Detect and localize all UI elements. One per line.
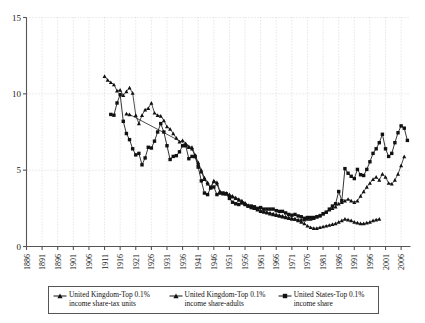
- x-tick-label-2006: 2006: [397, 254, 406, 270]
- data-point-triangle: [374, 175, 378, 179]
- data-point-square: [287, 213, 290, 216]
- x-tick-label-1936: 1936: [179, 254, 188, 270]
- data-point-square: [137, 152, 140, 155]
- data-point-square: [374, 147, 377, 150]
- data-point-square: [368, 160, 371, 163]
- data-point-triangle: [343, 217, 347, 221]
- data-point-square: [153, 139, 156, 142]
- data-point-square: [403, 126, 406, 129]
- data-point-square: [172, 155, 175, 158]
- data-point-square: [156, 130, 159, 133]
- data-point-square: [300, 215, 303, 218]
- data-point-square: [356, 168, 359, 171]
- series-1: [103, 74, 382, 230]
- data-point-square: [284, 211, 287, 214]
- legend-entry-1[interactable]: United Kingdom-Top 0.1%income share-tax …: [53, 290, 169, 308]
- data-point-square: [175, 154, 178, 157]
- data-point-square: [384, 147, 387, 150]
- data-point-triangle: [134, 113, 138, 117]
- chart-legend: United Kingdom-Top 0.1%income share-tax …: [48, 286, 379, 314]
- data-point-square: [406, 139, 409, 142]
- data-point-square: [271, 207, 274, 210]
- data-point-square: [293, 213, 296, 216]
- data-point-triangle: [153, 111, 157, 115]
- y-tick-label-0: 0: [17, 242, 22, 252]
- data-point-triangle: [131, 91, 135, 95]
- series-line-2: [126, 114, 404, 220]
- x-tick-label-1901: 1901: [69, 254, 78, 270]
- data-point-square: [281, 210, 284, 213]
- legend-label-line2-3: income share: [294, 299, 365, 308]
- data-point-square: [399, 124, 402, 127]
- data-point-square: [193, 155, 196, 158]
- data-point-square: [278, 210, 281, 213]
- y-tick-label-10: 10: [12, 89, 22, 99]
- data-point-square: [131, 147, 134, 150]
- data-point-square: [109, 113, 112, 116]
- data-point-square: [140, 163, 143, 166]
- data-point-square: [303, 217, 306, 220]
- data-point-square: [237, 203, 240, 206]
- data-point-square: [290, 214, 293, 217]
- data-point-triangle: [387, 181, 391, 185]
- data-point-square: [306, 216, 309, 219]
- x-tick-label-1941: 1941: [194, 254, 203, 270]
- data-point-square: [250, 204, 253, 207]
- legend-label-line2-1: income share-tax units: [69, 299, 150, 308]
- data-point-triangle: [380, 172, 384, 176]
- x-tick-label-1931: 1931: [163, 254, 172, 270]
- legend-entry-3[interactable]: United States-Top 0.1%income share: [278, 290, 374, 308]
- data-point-square: [178, 150, 181, 153]
- legend-label-2: United Kingdom-Top 0.1%income share-adul…: [185, 290, 266, 308]
- data-point-square: [268, 207, 271, 210]
- data-point-square: [243, 203, 246, 206]
- legend-entry-2[interactable]: United Kingdom-Top 0.1%income share-adul…: [169, 290, 278, 308]
- legend-label-line1-3: United States-Top 0.1%: [294, 290, 365, 299]
- x-tick-label-1906: 1906: [85, 254, 94, 270]
- data-point-triangle: [118, 88, 122, 92]
- x-tick-label-1951: 1951: [225, 254, 234, 270]
- data-point-square: [143, 156, 146, 159]
- data-point-square: [203, 191, 206, 194]
- data-point-square: [318, 214, 321, 217]
- data-point-square: [246, 204, 249, 207]
- data-point-square: [253, 205, 256, 208]
- data-point-square: [234, 202, 237, 205]
- x-tick-label-1886: 1886: [23, 254, 32, 270]
- x-tick-label-1996: 1996: [366, 254, 375, 270]
- x-tick-label-1911: 1911: [101, 254, 110, 270]
- data-point-square: [209, 186, 212, 189]
- data-point-triangle: [128, 86, 132, 90]
- x-tick-label-1981: 1981: [319, 254, 328, 270]
- data-point-square: [215, 193, 218, 196]
- data-point-square: [353, 177, 356, 180]
- data-point-square: [265, 207, 268, 210]
- legend-label-3: United States-Top 0.1%income share: [294, 290, 365, 308]
- data-point-square: [346, 172, 349, 175]
- data-point-square: [159, 122, 162, 125]
- data-point-square: [393, 141, 396, 144]
- y-tick-label-15: 15: [12, 13, 22, 23]
- data-point-square: [184, 144, 187, 147]
- legend-label-line1-2: United Kingdom-Top 0.1%: [185, 290, 266, 299]
- x-tick-label-1966: 1966: [272, 254, 281, 270]
- data-point-square: [365, 168, 368, 171]
- x-tick-label-1891: 1891: [38, 254, 47, 270]
- data-point-square: [165, 144, 168, 147]
- data-point-square: [200, 179, 203, 182]
- data-point-triangle: [396, 172, 400, 176]
- data-point-square: [206, 193, 209, 196]
- data-point-square: [231, 201, 234, 204]
- data-point-square: [150, 146, 153, 149]
- data-point-triangle: [124, 112, 128, 116]
- data-point-square: [197, 165, 200, 168]
- data-point-square: [296, 214, 299, 217]
- data-point-square: [128, 138, 131, 141]
- data-point-triangle: [140, 113, 144, 117]
- data-point-square: [240, 201, 243, 204]
- x-tick-label-1946: 1946: [210, 254, 219, 270]
- x-tick-label-1896: 1896: [54, 254, 63, 270]
- data-point-square: [125, 132, 128, 135]
- data-point-square: [378, 141, 381, 144]
- data-point-triangle: [146, 106, 150, 110]
